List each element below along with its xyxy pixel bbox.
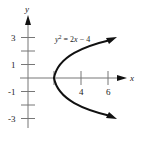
x-tick-label-6: 6 (106, 87, 111, 97)
x-tick-label-4: 4 (79, 87, 84, 97)
y-tick-label-minus-3: -3 (8, 114, 16, 124)
parabola-chart: y x 3 1 -1 -3 4 6 y2 = 2x − 4 (0, 0, 144, 146)
y-tick-label-3: 3 (11, 33, 16, 43)
curve-upper-arrow-icon (106, 37, 117, 44)
equation-label: y2 = 2x − 4 (54, 34, 90, 44)
y-axis-label: y (24, 4, 29, 14)
y-tick-label-1: 1 (11, 60, 16, 70)
x-axis-label: x (129, 73, 134, 83)
curve-lower-arrow-icon (106, 112, 117, 119)
x-axis-arrow-icon (117, 75, 127, 81)
y-axis-arrow-icon (25, 15, 31, 25)
y-tick-label-minus-1: -1 (8, 87, 16, 97)
